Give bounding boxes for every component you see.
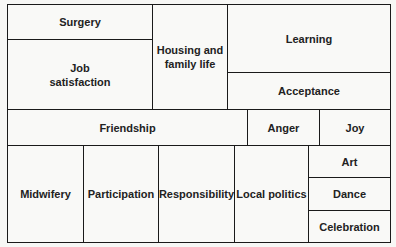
cell-label: Surgery: [59, 15, 101, 29]
cell-art: Art: [308, 145, 391, 178]
cell-learning: Learning: [227, 4, 391, 73]
cell-surgery: Surgery: [7, 4, 153, 40]
cell-label: Learning: [286, 32, 332, 46]
cell-label: Celebration: [319, 220, 380, 234]
cell-local-politics: Local politics: [234, 145, 309, 243]
cell-friendship: Friendship: [7, 109, 248, 146]
cell-label: Joy: [346, 121, 365, 135]
cell-celebration: Celebration: [308, 210, 391, 243]
cell-label: Housing and family life: [155, 43, 225, 71]
cell-acceptance: Acceptance: [227, 72, 391, 110]
cell-anger: Anger: [247, 109, 320, 146]
cell-label: Anger: [268, 121, 300, 135]
cell-responsibility: Responsibility: [158, 145, 235, 243]
cell-label: Acceptance: [278, 84, 340, 98]
cell-job-satisfaction: Job satisfaction: [7, 39, 153, 110]
cell-label: Art: [342, 155, 358, 169]
cell-label: Midwifery: [20, 187, 71, 201]
cell-dance: Dance: [308, 177, 391, 211]
cell-label: Dance: [333, 187, 366, 201]
cell-label: Responsibility: [159, 187, 234, 201]
cell-label: Participation: [88, 187, 155, 201]
cell-participation: Participation: [83, 145, 159, 243]
cell-housing-family-life: Housing and family life: [152, 4, 228, 110]
cell-label: Local politics: [236, 187, 306, 201]
cell-midwifery: Midwifery: [7, 145, 84, 243]
cell-joy: Joy: [319, 109, 391, 146]
cell-label: Friendship: [99, 121, 155, 135]
cell-label: Job satisfaction: [40, 61, 120, 89]
